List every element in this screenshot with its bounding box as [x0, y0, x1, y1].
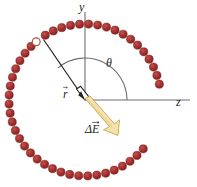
- ring-bead: [11, 126, 19, 134]
- ring-bead: [58, 24, 66, 32]
- ring-bead: [94, 21, 102, 29]
- ring-bead: [8, 73, 16, 81]
- ring-bead: [84, 172, 92, 180]
- ring-bead: [6, 82, 14, 90]
- ring-bead: [16, 57, 24, 65]
- z-axis-label: z: [176, 96, 181, 108]
- ring-bead: [75, 20, 83, 28]
- ring-bead: [102, 169, 110, 177]
- ring-bead: [155, 80, 163, 88]
- y-axis-label: y: [79, 1, 84, 13]
- ring-bead: [133, 151, 141, 159]
- ring-bead: [15, 134, 23, 142]
- ring-bead: [119, 30, 127, 38]
- ring-bead: [84, 20, 92, 28]
- ring-bead: [133, 41, 141, 49]
- ring-bead: [153, 71, 161, 79]
- position-vector-label: r: [63, 88, 68, 100]
- r-label-stack: r: [63, 88, 68, 100]
- e-label-stack: E: [92, 123, 99, 135]
- theta-angle-arc: [58, 58, 127, 100]
- ring-bead: [21, 49, 29, 57]
- ring-bead: [33, 155, 41, 163]
- physics-diagram-figure: y z θ r Δ E: [0, 0, 197, 187]
- ring-bead: [5, 91, 13, 99]
- ring-bead: [118, 162, 126, 170]
- ring-bead: [127, 35, 135, 43]
- ring-bead: [139, 145, 147, 153]
- open-bead-marker: [32, 38, 40, 46]
- ring-bead: [40, 160, 48, 168]
- delta-symbol: Δ: [85, 122, 92, 136]
- ring-bead: [140, 48, 148, 56]
- theta-angle-label: θ: [106, 57, 112, 69]
- ring-bead: [145, 55, 153, 63]
- ring-bead: [149, 63, 157, 71]
- ring-bead: [66, 21, 74, 29]
- ring-bead: [48, 165, 56, 173]
- ring-bead: [102, 23, 110, 31]
- ring-bead: [75, 172, 83, 180]
- ring-bead: [57, 168, 65, 176]
- r-label-text: r: [63, 87, 68, 101]
- ring-bead: [5, 100, 13, 108]
- ring-bead: [26, 149, 34, 157]
- diagram-canvas: [0, 0, 197, 187]
- ring-bead: [110, 166, 118, 174]
- ring-bead: [12, 65, 20, 73]
- ring-bead: [111, 26, 119, 34]
- e-label-text: E: [92, 122, 99, 136]
- ring-bead: [49, 27, 57, 35]
- delta-e-vector-label: Δ E: [85, 123, 99, 135]
- ring-bead: [6, 109, 14, 117]
- ring-bead: [41, 31, 49, 39]
- ring-bead: [20, 142, 28, 150]
- ring-bead: [66, 170, 74, 178]
- ring-bead: [93, 171, 101, 179]
- ring-bead: [8, 118, 16, 126]
- ring-bead: [126, 157, 134, 165]
